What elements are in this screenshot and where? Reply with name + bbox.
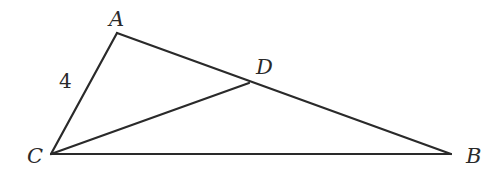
- label-d: D: [255, 55, 273, 79]
- triangle-diagram: A D C B 4: [0, 0, 496, 176]
- segment-ab: [117, 33, 451, 154]
- label-c: C: [27, 144, 43, 168]
- segment-cd: [51, 83, 249, 154]
- label-b: B: [465, 144, 481, 168]
- segment-ac: [51, 33, 117, 154]
- label-a: A: [107, 7, 124, 31]
- length-ac: 4: [59, 69, 72, 93]
